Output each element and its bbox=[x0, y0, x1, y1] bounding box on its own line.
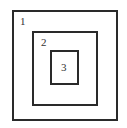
label-middle: 2 bbox=[41, 37, 47, 48]
label-outer: 1 bbox=[20, 16, 26, 27]
label-inner: 3 bbox=[61, 62, 67, 73]
